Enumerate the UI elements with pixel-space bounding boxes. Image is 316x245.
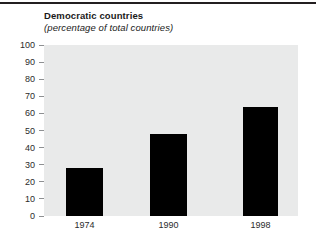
x-tick-label-1990: 1990 bbox=[148, 220, 189, 230]
y-axis: 100 90 80 70 60 50 40 30 bbox=[0, 45, 44, 216]
chart-title: Democratic countries bbox=[44, 10, 304, 22]
y-tick-label: 30 bbox=[5, 159, 35, 171]
y-tick-label: 60 bbox=[5, 107, 35, 119]
y-tick-label: 0 bbox=[5, 210, 35, 222]
x-tick-label-1998: 1998 bbox=[240, 220, 281, 230]
y-tick-label: 100 bbox=[5, 39, 35, 51]
bar-1998 bbox=[243, 107, 278, 216]
chart-heading: Democratic countries (percentage of tota… bbox=[44, 10, 304, 34]
y-tick-label: 70 bbox=[5, 90, 35, 102]
y-tick-label: 90 bbox=[5, 56, 35, 68]
top-divider-rule bbox=[0, 2, 316, 4]
bar-1990 bbox=[150, 134, 187, 216]
chart-figure: Democratic countries (percentage of tota… bbox=[0, 0, 316, 245]
bar-series bbox=[44, 45, 298, 216]
y-tick-label: 10 bbox=[5, 193, 35, 205]
bar-1974 bbox=[66, 168, 103, 216]
y-tick-label: 50 bbox=[5, 125, 35, 137]
chart-subtitle: (percentage of total countries) bbox=[44, 22, 304, 34]
y-tick-label: 20 bbox=[5, 176, 35, 188]
x-axis: 1974 1990 1998 bbox=[44, 220, 298, 238]
y-tick-label: 40 bbox=[5, 142, 35, 154]
y-tick-label: 80 bbox=[5, 73, 35, 85]
x-tick-label-1974: 1974 bbox=[64, 220, 105, 230]
